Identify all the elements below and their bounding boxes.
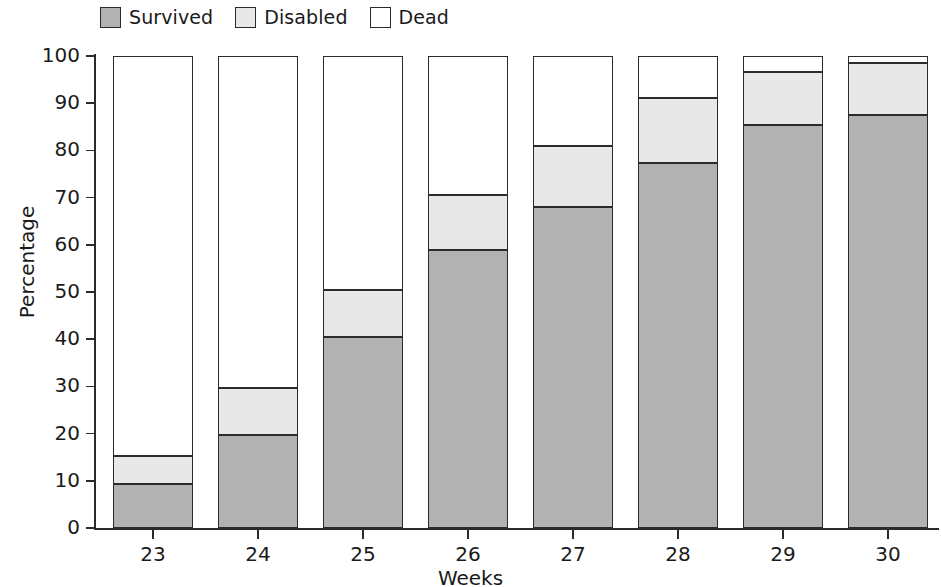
bar-segment-dead [218,56,298,388]
bar-segment-survived [113,484,193,528]
bar-segment-dead [323,56,403,290]
y-tick-mark [86,433,95,435]
bar-segment-disabled [323,290,403,337]
x-tick-mark [152,530,154,539]
x-tick-mark [467,530,469,539]
bar-segment-survived [533,207,613,528]
x-tick-label: 30 [858,543,918,565]
bar-group-week-23 [113,56,193,528]
bar-segment-dead [848,56,928,63]
y-tick-mark [86,386,95,388]
x-tick-label: 28 [648,543,708,565]
y-tick-label: 80 [24,139,80,159]
bar-segment-survived [743,125,823,528]
bar-segment-disabled [848,63,928,115]
x-tick-label: 27 [543,543,603,565]
bar-segment-disabled [533,146,613,207]
y-tick-mark [86,527,95,529]
bar-group-week-24 [218,56,298,528]
y-tick-mark [86,55,95,57]
y-tick-mark [86,150,95,152]
plot-area: 0102030405060708090100 2324252627282930 … [0,0,941,587]
x-tick-mark [782,530,784,539]
bar-segment-disabled [428,195,508,250]
x-tick-label: 24 [228,543,288,565]
bar-segment-dead [533,56,613,146]
x-tick-mark [677,530,679,539]
y-tick-mark [86,291,95,293]
x-tick-label: 25 [333,543,393,565]
bar-segment-survived [323,337,403,528]
bar-group-week-26 [428,56,508,528]
x-tick-label: 29 [753,543,813,565]
bar-group-week-27 [533,56,613,528]
x-tick-label: 23 [123,543,183,565]
x-tick-mark [362,530,364,539]
y-tick-label: 0 [24,517,80,537]
x-tick-mark [257,530,259,539]
y-tick-label: 10 [24,470,80,490]
y-tick-label: 90 [24,92,80,112]
x-axis-label: Weeks [0,568,941,587]
bar-segment-survived [638,163,718,528]
bar-segment-dead [638,56,718,98]
x-tick-mark [887,530,889,539]
bar-group-week-28 [638,56,718,528]
y-tick-mark [86,197,95,199]
y-tick-mark [86,102,95,104]
y-axis-label: Percentage [17,182,37,342]
x-tick-label: 26 [438,543,498,565]
bar-segment-dead [113,56,193,456]
y-tick-mark [86,244,95,246]
x-tick-mark [572,530,574,539]
bar-segment-disabled [218,388,298,435]
y-tick-label: 100 [24,45,80,65]
bar-group-week-30 [848,56,928,528]
stacked-bar-chart: Survived Disabled Dead 01020304050607080… [0,0,941,587]
y-tick-label: 20 [24,423,80,443]
bar-group-week-29 [743,56,823,528]
bar-segment-disabled [113,456,193,484]
bar-segment-survived [428,250,508,528]
x-axis-line [94,528,939,530]
bar-segment-disabled [743,72,823,125]
y-tick-label: 30 [24,375,80,395]
bar-segment-survived [848,115,928,528]
bar-segment-dead [743,56,823,72]
bar-segment-dead [428,56,508,195]
bar-group-week-25 [323,56,403,528]
bar-segment-survived [218,435,298,528]
y-tick-mark [86,338,95,340]
bar-segment-disabled [638,98,718,163]
y-tick-mark [86,480,95,482]
